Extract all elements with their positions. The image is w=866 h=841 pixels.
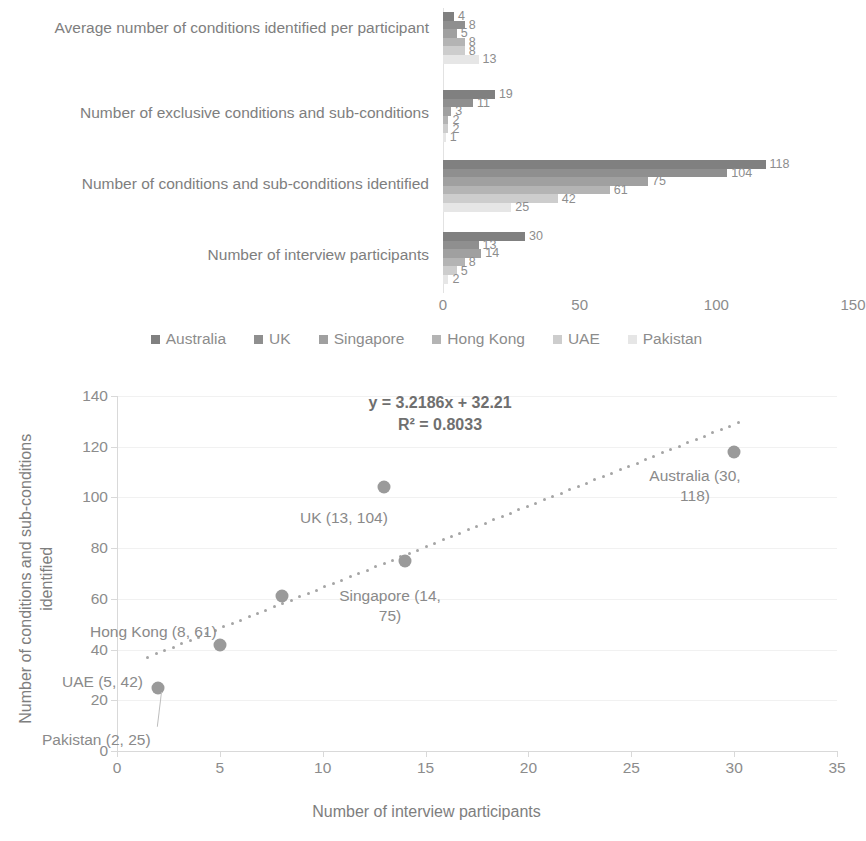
trendline-dot — [703, 435, 706, 438]
bar-row: 2 — [443, 275, 853, 284]
scatter-x-tick-15: 15 — [417, 759, 434, 777]
scatter-point-label-australia: Australia (30, 118) — [620, 466, 770, 506]
scatter-point-australia[interactable] — [728, 445, 741, 458]
scatter-y-tick-20: 20 — [91, 691, 108, 709]
scatter-y-tick-60: 60 — [91, 590, 108, 608]
bar-segment-singapore — [443, 29, 457, 38]
trendline-dot — [560, 492, 563, 495]
bar-segment-uk — [443, 169, 727, 178]
bar-row: 1 — [443, 133, 853, 142]
legend-item-uae[interactable]: UAE — [553, 330, 600, 348]
bar-row: 13 — [443, 241, 853, 250]
bar-group-1: 19113221 — [443, 90, 853, 142]
bar-segment-hong-kong — [443, 186, 610, 195]
trendline-dot — [416, 549, 419, 552]
scatter-point-singapore[interactable] — [399, 554, 412, 567]
trendline-dot — [661, 451, 664, 454]
scatter-x-tick-35: 35 — [828, 759, 845, 777]
bar-row: 5 — [443, 266, 853, 275]
trendline-dot — [509, 512, 512, 515]
scatter-x-tick-mark — [426, 751, 427, 757]
legend-item-hong-kong[interactable]: Hong Kong — [432, 330, 525, 348]
scatter-x-tick-mark — [323, 751, 324, 757]
trendline-dot — [602, 475, 605, 478]
legend-label: Hong Kong — [447, 330, 525, 348]
bar-segment-pakistan — [443, 55, 479, 64]
bar-segment-australia — [443, 12, 454, 21]
bar-row: 19 — [443, 90, 853, 99]
bar-group-0: 4858813 — [443, 12, 853, 64]
scatter-gridline — [117, 650, 837, 651]
scatter-x-tick-mark — [734, 751, 735, 757]
trendline-dot — [256, 612, 259, 615]
trendline-dot — [366, 569, 369, 572]
bar-chart-legend: AustraliaUKSingaporeHong KongUAEPakistan — [0, 330, 853, 348]
scatter-x-axis-line — [117, 751, 837, 752]
bar-row: 8 — [443, 38, 853, 47]
scatter-y-tick-140: 140 — [82, 387, 108, 405]
bar-row: 5 — [443, 29, 853, 38]
bar-segment-uk — [443, 241, 479, 250]
legend-item-pakistan[interactable]: Pakistan — [628, 330, 702, 348]
bar-row: 8 — [443, 46, 853, 55]
bar-row: 11 — [443, 99, 853, 108]
bar-value-label: 13 — [479, 52, 497, 66]
scatter-y-tick-mark — [111, 700, 117, 701]
trendline-dot — [720, 428, 723, 431]
scatter-x-tick-25: 25 — [623, 759, 640, 777]
bar-row: 3 — [443, 107, 853, 116]
scatter-gridline — [117, 599, 837, 600]
scatter-y-axis-title: Number of conditions and sub-conditions … — [16, 414, 58, 744]
bar-category-label-1: Number of exclusive conditions and sub-c… — [0, 103, 429, 124]
trendline-dot — [391, 559, 394, 562]
trendline-dot — [492, 518, 495, 521]
trendline-dot — [155, 652, 158, 655]
scatter-point-label-uk: UK (13, 104) — [300, 508, 440, 528]
scatter-y-tick-mark — [111, 447, 117, 448]
trendline-dot — [433, 542, 436, 545]
bar-plot-area: 48588131911322111810475614225301314852 — [443, 8, 853, 293]
scatter-y-tick-mark — [111, 396, 117, 397]
scatter-point-uk[interactable] — [378, 481, 391, 494]
trendline-dot — [172, 646, 175, 649]
bar-x-axis-ticks: 050100150 — [443, 296, 853, 320]
trendline-dot — [711, 431, 714, 434]
bar-category-label-0: Average number of conditions identified … — [0, 18, 429, 39]
scatter-x-tick-20: 20 — [520, 759, 537, 777]
bar-row: 75 — [443, 177, 853, 186]
trendline-dot — [543, 498, 546, 501]
bar-value-label: 25 — [511, 200, 529, 214]
scatter-x-tick-mark — [220, 751, 221, 757]
bar-row: 13 — [443, 55, 853, 64]
trendline-dot — [450, 535, 453, 538]
scatter-x-tick-5: 5 — [216, 759, 225, 777]
bar-category-labels: Average number of conditions identified … — [0, 0, 437, 300]
trendline-equation-label: y = 3.2186x + 32.21 R² = 0.8033 — [330, 392, 550, 435]
trendline-dot — [644, 458, 647, 461]
bar-x-tick-50: 50 — [571, 296, 588, 313]
legend-swatch-icon — [553, 335, 562, 344]
legend-item-uk[interactable]: UK — [254, 330, 291, 348]
bar-row: 30 — [443, 232, 853, 241]
bar-row: 61 — [443, 186, 853, 195]
bar-group-3: 301314852 — [443, 232, 853, 284]
trendline-dot — [484, 522, 487, 525]
trendline-dot — [248, 615, 251, 618]
scatter-point-hong-kong[interactable] — [275, 590, 288, 603]
trendline-dot — [534, 502, 537, 505]
trendline-dot — [737, 421, 740, 424]
trendline-dot — [340, 579, 343, 582]
trendline-dot — [526, 505, 529, 508]
trendline-dot — [467, 528, 470, 531]
legend-item-singapore[interactable]: Singapore — [319, 330, 405, 348]
trendline-dot — [695, 438, 698, 441]
scatter-point-label-pakistan: Pakistan (2, 25) — [42, 730, 212, 750]
legend-label: Australia — [166, 330, 226, 348]
trendline-dot — [146, 656, 149, 659]
bar-value-label: 1 — [446, 130, 457, 144]
bar-category-label-3: Number of interview participants — [0, 245, 429, 266]
legend-item-australia[interactable]: Australia — [151, 330, 226, 348]
trendline-dot — [652, 455, 655, 458]
legend-swatch-icon — [628, 335, 637, 344]
bar-row: 4 — [443, 12, 853, 21]
